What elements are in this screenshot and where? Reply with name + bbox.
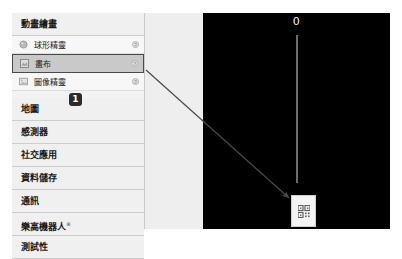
palette-category-experimental[interactable]: 測試性 <box>12 236 144 259</box>
palette-category-map[interactable]: 地圖 <box>12 98 144 121</box>
palette-item-canvas[interactable]: 畫布 ? <box>12 54 144 73</box>
phone-viewer-canvas[interactable]: 0 <box>203 13 390 229</box>
palette-category-connectivity[interactable]: 通訊 <box>12 190 144 213</box>
palette-section-drawing-animation[interactable]: 動畫繪畫 <box>12 13 144 36</box>
palette-item-ball-sprite[interactable]: 球形精靈 ? <box>12 36 144 54</box>
help-icon[interactable]: ? <box>132 41 139 48</box>
palette-sidebar: 動畫繪畫 球形精靈 ? 畫布 ? 圖像精靈 <box>12 13 145 229</box>
help-icon[interactable]: ? <box>131 60 138 67</box>
viewer-guide-line <box>296 35 297 183</box>
category-label: 樂高機器人 <box>21 222 66 232</box>
canvas-icon <box>20 59 29 68</box>
viewer-title-label: 0 <box>203 15 390 28</box>
image-sprite-icon <box>19 77 28 86</box>
palette-divider <box>12 91 144 98</box>
registered-mark: ® <box>66 221 71 227</box>
category-label: 地圖 <box>21 104 39 114</box>
palette-item-image-sprite[interactable]: 圖像精靈 ? <box>12 73 144 91</box>
help-icon[interactable]: ? <box>132 78 139 85</box>
dropped-canvas-component[interactable] <box>291 195 316 227</box>
viewer-gutter <box>145 13 203 229</box>
category-label: 感測器 <box>21 127 48 137</box>
ball-sprite-icon <box>19 40 28 49</box>
category-label: 測試性 <box>21 242 48 252</box>
palette-item-label: 畫布 <box>35 58 131 69</box>
palette-category-social[interactable]: 社交應用 <box>12 144 144 167</box>
category-label: 通訊 <box>21 196 39 206</box>
category-label: 社交應用 <box>21 150 57 160</box>
palette-category-storage[interactable]: 資料儲存 <box>12 167 144 190</box>
palette-item-label: 球形精靈 <box>34 39 132 50</box>
category-label: 資料儲存 <box>21 173 57 183</box>
palette-item-label: 圖像精靈 <box>34 76 132 87</box>
palette-category-sensors[interactable]: 感測器 <box>12 121 144 144</box>
qr-code-icon <box>298 205 310 218</box>
palette-category-lego-robot[interactable]: 樂高機器人® <box>12 213 144 236</box>
